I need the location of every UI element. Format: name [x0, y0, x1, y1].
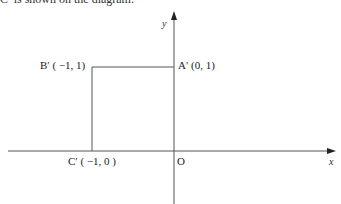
point-c-label: C′ ( −1, 0 ) [68, 155, 116, 167]
x-axis-label: x [329, 156, 333, 167]
y-axis-label: y [162, 18, 166, 29]
origin-label: O [177, 155, 185, 167]
point-a-label: A′ (0, 1) [178, 59, 215, 71]
coordinate-diagram [0, 0, 341, 204]
y-axis-arrow-icon [171, 11, 177, 20]
point-b-label: B′ ( −1, 1) [40, 59, 85, 71]
x-axis-arrow-icon [327, 148, 336, 154]
